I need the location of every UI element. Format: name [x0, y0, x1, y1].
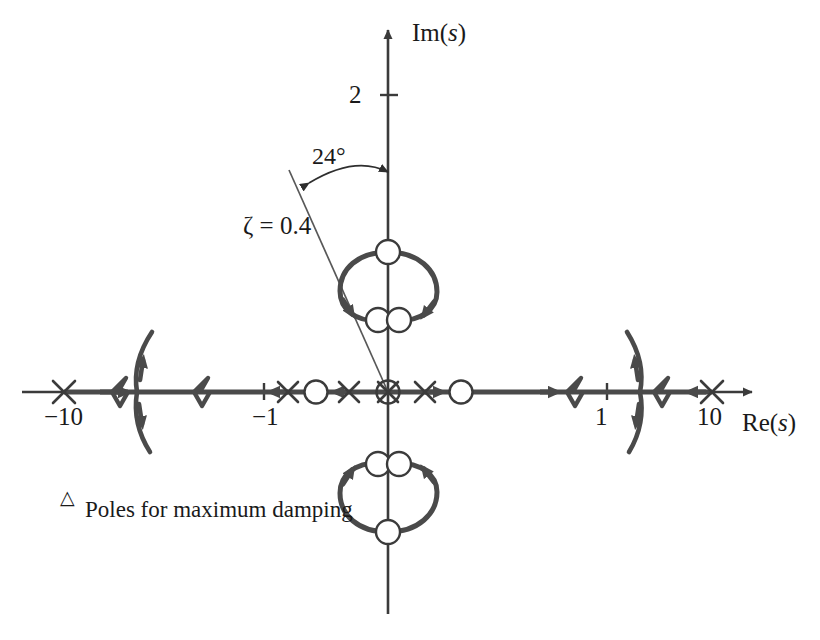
- axis-break-left-outer: [112, 378, 128, 406]
- asymptote-arrow-right-up: [635, 360, 638, 380]
- zero-marker-real-neg: [305, 381, 328, 404]
- tick-label-im-2: 2: [349, 82, 362, 107]
- imaginary-axis-label: Im(s): [412, 20, 466, 45]
- zeta-line: [289, 170, 388, 392]
- legend: Poles for maximum damping: [60, 498, 353, 521]
- zero-marker-real-pos: [450, 381, 473, 404]
- real-axis-label: Re(s): [742, 410, 796, 435]
- root-locus-plot: [0, 0, 820, 640]
- pole-label-neg10: −10: [44, 404, 83, 429]
- axis-break-right-inner: [567, 378, 583, 406]
- axis-break-right-outer: [654, 378, 670, 406]
- angle-label: 24°: [312, 144, 346, 168]
- root-locus-figure: Im(s) Re(s) 2 −1 1 −10 10 24° ζ = 0.4 Po…: [0, 0, 820, 640]
- damping-ratio-label: ζ = 0.4: [243, 213, 311, 238]
- asymptote-arrow-left-up: [140, 360, 143, 380]
- axis-break-left-inner: [194, 378, 210, 406]
- asymptote-arrow-left-down: [139, 404, 142, 424]
- zero-marker-upper-top: [376, 240, 400, 264]
- tick-label-re-neg1: −1: [252, 404, 279, 429]
- zero-marker-lower-right: [387, 452, 411, 476]
- zero-marker-lower-bottom: [376, 520, 400, 544]
- zero-marker-upper-right: [387, 308, 411, 332]
- asymptote-arrow-right-down: [636, 404, 639, 424]
- pole-label-pos10: 10: [697, 404, 722, 429]
- legend-text: Poles for maximum damping: [85, 498, 353, 521]
- triangle-icon: [60, 503, 76, 516]
- tick-label-re-pos1: 1: [595, 404, 608, 429]
- damping-ratio-line-group: [289, 166, 388, 392]
